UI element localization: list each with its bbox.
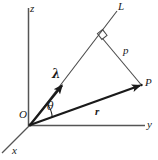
y-axis-label: y	[147, 119, 152, 130]
lambda-vector-label: λ	[52, 68, 60, 80]
origin-label: O	[19, 109, 27, 120]
theta-angle-label: θ	[47, 101, 54, 112]
figure-drawing-canvas	[0, 0, 158, 160]
vector-geometry-figure: z y x O L P λ r p θ	[0, 0, 158, 160]
x-axis-label: x	[12, 145, 17, 156]
point-P-dot	[140, 84, 142, 86]
origin-point-dot	[28, 123, 31, 126]
r-vector-label: r	[95, 106, 99, 117]
line-L-label: L	[118, 1, 124, 12]
point-P-label: P	[145, 77, 152, 88]
distance-p-label: p	[123, 45, 129, 56]
z-axis-label: z	[30, 3, 34, 14]
perpendicular-segment-p	[103, 39, 142, 85]
